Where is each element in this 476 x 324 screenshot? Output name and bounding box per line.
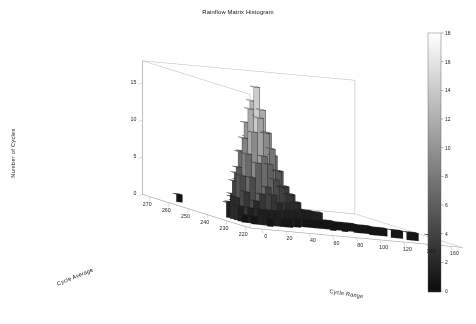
x-tick-4: 80: [357, 243, 363, 248]
x-tick-2: 40: [310, 238, 316, 243]
z-tick-0: 0: [133, 191, 136, 196]
figure-3d-histogram: Rainflow Matrix Histogram Number of Cycl…: [0, 0, 476, 324]
chart-title: Rainflow Matrix Histogram: [0, 9, 476, 15]
colorbar-tick-1: 2: [445, 259, 448, 265]
y-tick-3: 240: [200, 220, 209, 225]
z-axis-label: Number of Cycles: [10, 118, 16, 188]
colorbar-tick-3: 6: [445, 202, 448, 208]
y-tick-0: 270: [143, 202, 152, 207]
y-tick-1: 260: [162, 208, 171, 213]
y-tick-4: 230: [219, 226, 228, 231]
z-tick-2: 10: [130, 117, 136, 122]
colorbar-tick-6: 12: [445, 116, 451, 122]
colorbar-tick-0: 0: [445, 288, 448, 294]
colorbar-tick-2: 4: [445, 231, 448, 237]
x-tick-1: 20: [286, 236, 292, 241]
colorbar-tick-4: 8: [445, 173, 448, 179]
x-tick-7: 140: [427, 249, 436, 254]
colorbar-tick-8: 16: [445, 59, 451, 65]
colorbar-tick-5: 10: [445, 145, 451, 151]
x-tick-3: 60: [334, 241, 340, 246]
y-tick-5: 220: [239, 232, 248, 237]
z-tick-3: 15: [130, 80, 136, 85]
colorbar-tick-7: 14: [445, 87, 451, 93]
x-tick-0: 0: [264, 234, 267, 239]
x-tick-6: 120: [403, 247, 412, 252]
z-tick-1: 5: [133, 154, 136, 159]
colorbar-tick-9: 18: [445, 30, 451, 36]
x-tick-8: 160: [450, 251, 459, 256]
x-tick-5: 100: [379, 245, 388, 250]
y-tick-2: 250: [181, 214, 190, 219]
